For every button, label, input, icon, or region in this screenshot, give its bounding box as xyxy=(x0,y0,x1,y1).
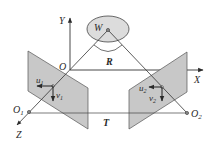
camera2-center-point xyxy=(185,111,188,114)
label-o2: O2 xyxy=(191,108,202,121)
rotation-arc xyxy=(94,45,122,52)
label-o: O xyxy=(59,61,66,72)
stereo-geometry-diagram: Y W O R X Z T O1 O2 u1 v1 u2 v2 xyxy=(0,0,215,144)
label-r: R xyxy=(105,56,113,67)
label-y: Y xyxy=(59,15,66,26)
camera1-center-point xyxy=(27,110,30,113)
label-z: Z xyxy=(16,129,22,140)
label-t: T xyxy=(103,117,110,128)
world-point xyxy=(106,28,109,31)
right-image-plane xyxy=(129,52,187,129)
label-x: X xyxy=(193,74,201,85)
label-o1: O1 xyxy=(13,104,24,117)
diagram-canvas: Y W O R X Z T O1 O2 u1 v1 u2 v2 xyxy=(0,0,215,144)
